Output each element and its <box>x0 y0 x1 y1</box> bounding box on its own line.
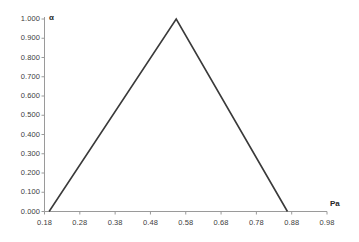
x-axis-tick-label: 0.48 <box>134 218 166 227</box>
y-axis-tick-label: 0.600 <box>4 91 40 100</box>
data-series-line <box>49 19 287 212</box>
x-axis-tick-label: 0.88 <box>276 218 308 227</box>
y-axis-tick-label: 0.800 <box>4 53 40 62</box>
x-axis-tick-label: 0.98 <box>311 218 343 227</box>
chart-plot-area <box>0 0 359 242</box>
y-axis-tick-label: 0.500 <box>4 110 40 119</box>
x-axis-tick-label: 0.68 <box>205 218 237 227</box>
y-axis-tick-label: 0.900 <box>4 33 40 42</box>
axis-lines <box>45 17 328 212</box>
y-axis-tick-label: 0.000 <box>4 207 40 216</box>
y-axis-tick-label: 0.200 <box>4 168 40 177</box>
y-axis-tick-label: 0.100 <box>4 187 40 196</box>
x-axis-tick-label: 0.18 <box>29 218 61 227</box>
y-axis-title: α <box>49 13 54 22</box>
x-axis-tick-label: 0.28 <box>64 218 96 227</box>
y-axis-tick-label: 0.300 <box>4 149 40 158</box>
x-axis-tick-label: 0.78 <box>240 218 272 227</box>
y-axis-tick-label: 0.700 <box>4 72 40 81</box>
x-axis-tick-label: 0.58 <box>170 218 202 227</box>
x-axis-tick-label: 0.38 <box>99 218 131 227</box>
y-axis-tick-label: 0.400 <box>4 130 40 139</box>
y-axis-tick-label: 1.000 <box>4 14 40 23</box>
x-axis-title: Pa <box>330 199 340 208</box>
chart-container: 0.0000.1000.2000.3000.4000.5000.6000.700… <box>0 0 359 242</box>
